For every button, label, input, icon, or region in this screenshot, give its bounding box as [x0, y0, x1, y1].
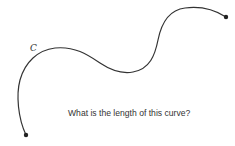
curve-diagram: C What is the length of this curve?	[0, 0, 235, 146]
end-point	[224, 15, 228, 19]
curve-figure	[0, 0, 235, 146]
start-point	[24, 133, 28, 137]
question-text: What is the length of this curve?	[68, 108, 190, 118]
curve-label: C	[30, 43, 37, 53]
